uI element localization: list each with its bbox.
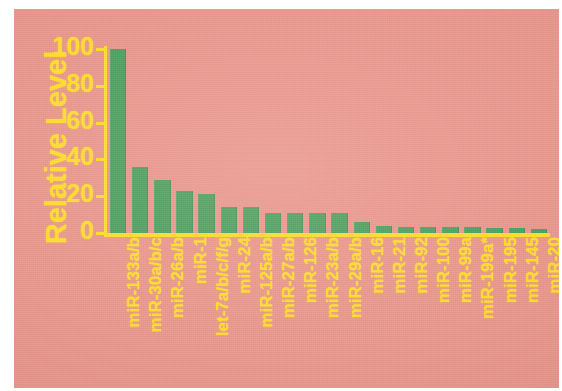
bar bbox=[420, 227, 436, 233]
x-axis-tick-label: let-7a/b/c/f/g bbox=[213, 237, 233, 336]
y-axis-tick-label: 0 bbox=[80, 218, 94, 243]
bar bbox=[464, 227, 480, 233]
bar bbox=[110, 49, 126, 233]
x-axis-tick-labels: miR-133a/bmiR-30a/b/cmiR-26a/bmiR-1let-7… bbox=[107, 237, 553, 387]
x-axis-tick-label: miR-145 bbox=[523, 237, 543, 303]
bar-series bbox=[107, 49, 550, 233]
y-axis-tick-mark bbox=[96, 158, 104, 161]
x-axis-tick-label: miR-133a/b bbox=[124, 237, 144, 328]
x-axis-tick-label: miR-21 bbox=[390, 237, 410, 294]
bar bbox=[198, 194, 214, 233]
y-axis-tick-label: 100 bbox=[52, 34, 94, 59]
bar bbox=[309, 213, 325, 233]
x-axis-tick-label: miR-125a/b bbox=[257, 237, 277, 328]
bar bbox=[376, 226, 392, 233]
y-axis-tick-label: 60 bbox=[66, 108, 94, 133]
x-axis-tick-label: miR-23a/b bbox=[323, 237, 343, 318]
x-axis-tick-label: miR-92 bbox=[412, 237, 432, 294]
x-axis-tick-label: miR-199a* bbox=[478, 237, 498, 319]
x-axis-tick-label: miR-26a/b bbox=[168, 237, 188, 318]
x-axis-tick-label: miR-24 bbox=[235, 237, 255, 294]
y-axis-tick-label: 80 bbox=[66, 71, 94, 96]
x-axis-tick-label: miR-29a/b bbox=[346, 237, 366, 318]
x-axis-tick-label: miR-27a/b bbox=[279, 237, 299, 318]
x-axis-tick-label: miR-30a/b/c bbox=[146, 237, 166, 332]
x-axis-tick-label: miR-195 bbox=[501, 237, 521, 303]
figure-root: Relative Level 100806040200 miR-133a/bmi… bbox=[0, 0, 562, 391]
x-axis-tick-label: miR-20 bbox=[545, 237, 559, 294]
chart-plate: Relative Level 100806040200 miR-133a/bmi… bbox=[14, 9, 559, 388]
x-axis-tick-label: miR-99a bbox=[456, 237, 476, 303]
bar bbox=[265, 213, 281, 233]
y-axis-tick-mark bbox=[96, 232, 104, 235]
y-axis-tick-mark bbox=[96, 85, 104, 88]
bar bbox=[221, 207, 237, 233]
bar bbox=[354, 222, 370, 233]
bar bbox=[486, 228, 502, 233]
plot-area: 100806040200 bbox=[104, 49, 550, 233]
y-axis-tick-mark bbox=[96, 122, 104, 125]
x-axis-tick-label: miR-126 bbox=[301, 237, 321, 303]
x-axis-tick-label: miR-100 bbox=[434, 237, 454, 303]
bar bbox=[287, 213, 303, 233]
bar bbox=[331, 213, 347, 233]
y-axis-tick-label: 40 bbox=[66, 144, 94, 169]
y-axis-tick-label: 20 bbox=[66, 181, 94, 206]
bar bbox=[243, 207, 259, 233]
x-axis-tick-label: miR-1 bbox=[191, 237, 211, 284]
bar bbox=[132, 167, 148, 233]
x-axis-tick-label: miR-16 bbox=[368, 237, 388, 294]
bar bbox=[442, 227, 458, 233]
bar bbox=[154, 180, 170, 233]
bar bbox=[176, 191, 192, 233]
bar bbox=[398, 227, 414, 233]
bar bbox=[531, 229, 547, 233]
bar bbox=[509, 228, 525, 233]
y-axis-tick-mark bbox=[96, 48, 104, 51]
y-axis-tick-mark bbox=[96, 195, 104, 198]
